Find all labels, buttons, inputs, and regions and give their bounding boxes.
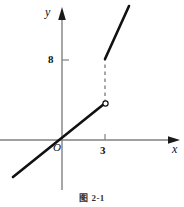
open-endpoint-marker <box>103 101 108 106</box>
origin-label: O <box>53 142 61 153</box>
figure-container: y x O 8 3 图 2-1 <box>0 0 184 207</box>
curve-branch-right <box>105 6 129 59</box>
coordinate-plot <box>0 0 184 207</box>
y-tick-label-8: 8 <box>48 54 54 65</box>
y-axis-label: y <box>45 6 50 18</box>
figure-caption: 图 2-1 <box>0 193 184 204</box>
x-tick-label-3: 3 <box>100 145 106 156</box>
x-axis-label: x <box>172 143 177 155</box>
y-axis-arrowhead <box>58 7 66 20</box>
